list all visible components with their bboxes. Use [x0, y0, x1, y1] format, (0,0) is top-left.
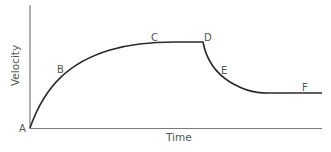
point-label-e: E: [221, 65, 227, 76]
velocity-time-chart: A B C D E F Time Velocity: [0, 0, 331, 152]
point-label-a: A: [19, 123, 26, 134]
point-label-b: B: [57, 64, 64, 75]
point-label-d: D: [204, 32, 212, 43]
x-axis-label: Time: [165, 131, 192, 143]
point-label-c: C: [151, 32, 158, 43]
velocity-curve: [30, 42, 322, 128]
y-axis-label: Velocity: [9, 45, 21, 86]
point-label-f: F: [302, 82, 308, 93]
